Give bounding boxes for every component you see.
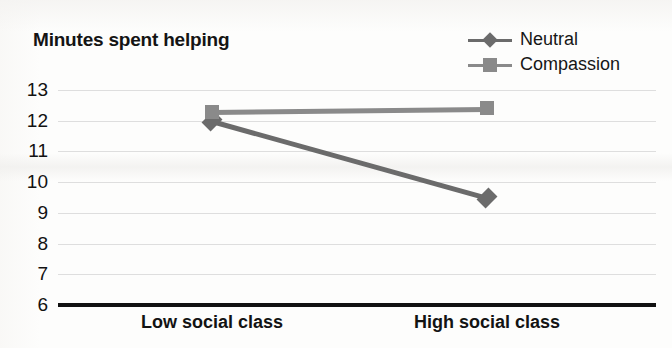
diamond-data-marker <box>477 187 498 208</box>
series-line <box>211 119 487 200</box>
y-axis-tick-label: 8 <box>8 233 48 255</box>
gridline <box>58 90 656 91</box>
gridline <box>58 274 656 275</box>
y-axis-tick-label: 11 <box>8 140 48 162</box>
x-axis-category-label: Low social class <box>141 312 283 333</box>
gridline <box>58 121 656 122</box>
y-axis-tick-label: 6 <box>8 294 48 316</box>
chart-container: Minutes spent helping Neutral Compassion… <box>0 0 672 348</box>
gridline <box>58 151 656 152</box>
gridline <box>58 182 656 183</box>
y-axis-tick-label: 10 <box>8 171 48 193</box>
x-axis-category-label: High social class <box>414 312 560 333</box>
x-axis-line <box>58 303 656 307</box>
square-data-marker <box>205 105 219 119</box>
y-axis-tick-label: 7 <box>8 263 48 285</box>
gridline <box>58 213 656 214</box>
gridline <box>58 244 656 245</box>
plot-area: 131211109876Low social classHigh social … <box>0 0 672 348</box>
y-axis-tick-label: 12 <box>8 110 48 132</box>
series-line <box>212 106 487 114</box>
y-axis-tick-label: 9 <box>8 202 48 224</box>
y-axis-tick-label: 13 <box>8 79 48 101</box>
square-data-marker <box>480 101 494 115</box>
